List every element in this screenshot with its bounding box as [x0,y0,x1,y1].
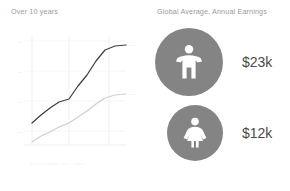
line-chart-panel: Over 10 years [0,0,150,191]
chart-plot-area: — — — — —— —— [14,33,146,159]
series-line-primary [32,45,126,123]
vertical-gridlines [32,37,109,145]
male-figure-icon [174,44,204,80]
earnings-row-male: $23k [155,28,272,96]
female-figure-icon [182,117,208,149]
female-earnings-value: $12k [242,125,272,141]
earnings-panel: Global Average, Annual Earnings $23k $12… [150,0,290,191]
y-axis-tick-labels: — — — — [18,40,22,134]
series-secondary-end-label: —— [129,92,136,96]
male-earnings-value: $23k [242,54,272,70]
chart-title: Over 10 years [11,7,58,16]
female-avatar-circle [167,105,223,161]
earnings-title: Global Average, Annual Earnings [157,7,267,16]
svg-text:—: — [18,40,22,44]
series-primary-end-label: —— [129,43,136,47]
earnings-row-female: $12k [167,105,272,161]
line-chart-svg: — — — — —— —— [14,33,146,159]
svg-text:—: — [18,70,22,74]
svg-text:—: — [18,130,22,134]
slide-canvas: Over 10 years [0,0,290,191]
male-avatar-circle [155,28,223,96]
gridlines [24,41,126,131]
x-axis-caption: placeholder axis label [30,161,85,166]
svg-text:—: — [18,100,22,104]
